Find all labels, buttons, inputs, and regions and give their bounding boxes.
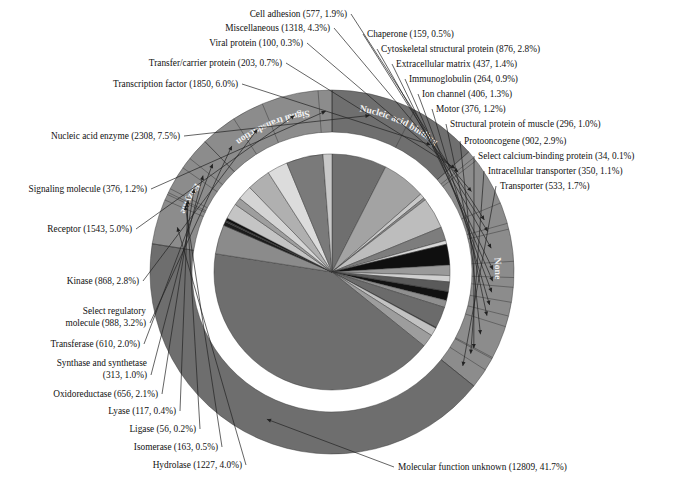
callout-label-motor: Motor (376, 1.2%) [436,104,506,115]
callout-label-nucleic-acid-enzyme: Nucleic acid enzyme (2308, 7.5%) [51,131,180,142]
callout-label-protooncogene: Protooncogene (902, 2.9%) [464,136,566,147]
callout-label-immunoglobulin: Immunoglobulin (264, 0.9%) [409,74,518,85]
callout-label-ligase: Ligase (56, 0.2%) [129,424,196,435]
callout-label-ion-channel: Ion channel (406, 1.3%) [422,89,512,100]
callout-label-structural-protein-of-muscle: Structural protein of muscle (296, 1.0%) [450,119,601,130]
callout-label-lyase: Lyase (117, 0.4%) [108,406,176,417]
molecular-function-pie-chart: Nucleic acid bindingNoneEnzymeSignal tra… [0,0,676,484]
callout-label-isomerase: Isomerase (163, 0.5%) [134,442,218,453]
callout-label-transfer-carrier-protein: Transfer/carrier protein (203, 0.7%) [149,58,282,69]
callout-label-molecular-function-unknown: Molecular function unknown (12809, 41.7%… [398,462,567,473]
callout-label-hydrolase: Hydrolase (1227, 4.0%) [153,460,242,471]
callout-label-chaperone: Chaperone (159, 0.5%) [367,29,454,40]
callout-label-intracellular-transporter: Intracellular transporter (350, 1.1%) [488,166,623,177]
callout-label-transferase: Transferase (610, 2.0%) [50,339,140,350]
callout-label-signaling-molecule: Signaling molecule (376, 1.2%) [28,184,147,195]
ring-label-none: None [492,257,504,280]
callout-label-transporter: Transporter (533, 1.7%) [500,181,590,192]
callout-label-synthase-and-synthetase-2: (313, 1.0%) [103,370,147,381]
callout-label-synthase-and-synthetase-1: Synthase and synthetase [57,358,147,368]
callout-label-kinase: Kinase (868, 2.8%) [67,276,139,287]
callout-label-miscellaneous: Miscellaneous (1318, 4.3%) [225,23,330,34]
callout-label-oxidoreductase: Oxidoreductase (656, 2.1%) [53,389,158,400]
callout-label-cytoskeletal-structural-protein: Cytoskeletal structural protein (876, 2.… [381,44,540,55]
callout-label-select-calcium-binding-protein: Select calcium-binding protein (34, 0.1%… [478,151,634,162]
callout-label-viral-protein: Viral protein (100, 0.3%) [209,38,303,49]
pie-chart-figure: Nucleic acid bindingNoneEnzymeSignal tra… [0,0,676,484]
callout-label-receptor: Receptor (1543, 5.0%) [47,224,132,235]
callout-label-transcription-factor: Transcription factor (1850, 6.0%) [113,79,238,90]
callout-label-select-regulatory-molecule-2: molecule (988, 3.2%) [65,318,146,329]
callout-label-select-regulatory-molecule-1: Select regulatory [83,306,147,316]
inner-pie-group [214,154,450,390]
callout-label-extracellular-matrix: Extracellular matrix (437, 1.4%) [396,59,517,70]
callout-label-cell-adhesion: Cell adhesion (577, 1.9%) [250,9,347,20]
